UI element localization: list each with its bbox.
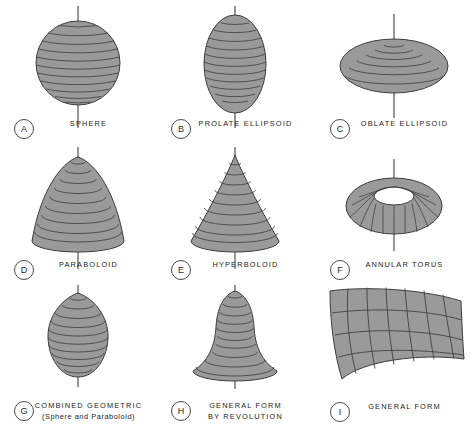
caption-text: GENERAL FORM BY REVOLUTION — [191, 401, 314, 422]
annular-torus-body — [346, 178, 442, 234]
caption-line-1: ANNULAR TORUS — [350, 260, 459, 271]
caption-general-form-patch: I GENERAL FORM — [316, 402, 473, 422]
figure-cell-hyperboloid: E HYPERBOLOID — [157, 141, 314, 282]
caption-general-form-revolution: H GENERAL FORM BY REVOLUTION — [157, 401, 314, 422]
caption-combined-geometric: G COMBINED GEOMETRIC (Sphere and Parabol… — [0, 401, 157, 422]
figure-cell-general-form-patch: I GENERAL FORM — [316, 283, 473, 424]
caption-line-1: PROLATE ELLIPSOID — [191, 119, 300, 130]
figure-badge-g: G — [14, 401, 34, 421]
sphere-body — [36, 21, 120, 105]
caption-hyperboloid: E HYPERBOLOID — [157, 260, 314, 280]
caption-paraboloid: D PARABOLOID — [0, 260, 157, 280]
caption-line-2: BY REVOLUTION — [191, 412, 300, 423]
general-form-revolution-body — [193, 291, 277, 381]
figure-badge-e: E — [171, 260, 191, 280]
caption-line-1: OBLATE ELLIPSOID — [350, 119, 459, 130]
figure-badge-f: F — [330, 260, 350, 280]
figure-badge-d: D — [14, 260, 34, 280]
combined-geometric-body — [48, 293, 108, 377]
oblate-ellipsoid-body — [340, 39, 448, 93]
caption-line-1: SPHERE — [34, 119, 143, 130]
figure-cell-combined-geometric: G COMBINED GEOMETRIC (Sphere and Parabol… — [0, 283, 157, 424]
figure-cell-sphere: A SPHERE — [0, 0, 157, 141]
caption-line-1: COMBINED GEOMETRIC — [34, 401, 143, 412]
figure-cell-general-form-revolution: H GENERAL FORM BY REVOLUTION — [157, 283, 314, 424]
caption-sphere: A SPHERE — [0, 119, 157, 139]
caption-text: PARABOLOID — [34, 260, 157, 271]
caption-text: COMBINED GEOMETRIC (Sphere and Paraboloi… — [34, 401, 157, 422]
caption-oblate-ellipsoid: C OBLATE ELLIPSOID — [316, 119, 473, 139]
caption-text: GENERAL FORM — [350, 402, 473, 413]
caption-line-2: (Sphere and Paraboloid) — [34, 412, 143, 423]
caption-text: ANNULAR TORUS — [350, 260, 473, 271]
figure-cell-oblate-ellipsoid: C OBLATE ELLIPSOID — [316, 0, 473, 141]
diagram-sheet: A SPHERE — [0, 0, 473, 424]
caption-line-1: GENERAL FORM — [191, 401, 300, 412]
caption-annular-torus: F ANNULAR TORUS — [316, 260, 473, 280]
general-form-patch-body — [330, 288, 464, 379]
hyperboloid-body — [191, 155, 279, 252]
figure-badge-i: I — [330, 402, 350, 422]
caption-prolate-ellipsoid: B PROLATE ELLIPSOID — [157, 119, 314, 139]
caption-line-1: PARABOLOID — [34, 260, 143, 271]
caption-text: SPHERE — [34, 119, 157, 130]
caption-text: HYPERBOLOID — [191, 260, 314, 271]
caption-text: OBLATE ELLIPSOID — [350, 119, 473, 130]
caption-line-1: GENERAL FORM — [350, 402, 459, 413]
figure-cell-annular-torus: F ANNULAR TORUS — [316, 141, 473, 282]
prolate-ellipsoid-body — [204, 15, 266, 113]
figure-cell-prolate-ellipsoid: B PROLATE ELLIPSOID — [157, 0, 314, 141]
figure-cell-paraboloid: D PARABOLOID — [0, 141, 157, 282]
figure-badge-c: C — [330, 119, 350, 139]
figure-badge-h: H — [171, 401, 191, 421]
figure-badge-b: B — [171, 119, 191, 139]
caption-text: PROLATE ELLIPSOID — [191, 119, 314, 130]
paraboloid-body — [32, 157, 124, 252]
figure-badge-a: A — [14, 119, 34, 139]
caption-line-1: HYPERBOLOID — [191, 260, 300, 271]
